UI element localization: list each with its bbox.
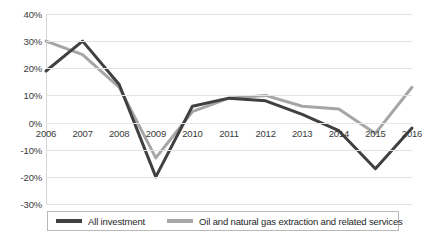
x-tick-label: 2006 <box>36 128 56 139</box>
gridline-40 <box>46 14 412 15</box>
y-tick-label: 40% <box>2 9 42 20</box>
x-tick-label: 2008 <box>109 128 129 139</box>
y-tick-label: 20% <box>2 63 42 74</box>
gridline--20 <box>46 177 412 178</box>
plot-area <box>46 14 412 204</box>
y-tick-label: 10% <box>2 90 42 101</box>
legend-entry-1[interactable]: All investment <box>56 216 145 227</box>
y-tick-label: -30% <box>2 199 42 210</box>
x-tick-label: 2007 <box>72 128 92 139</box>
series-lines <box>46 14 412 204</box>
gridline--10 <box>46 150 412 151</box>
gridline-0 <box>46 123 412 124</box>
chart-legend: All investmentOil and natural gas extrac… <box>47 211 399 231</box>
gridline--30 <box>46 204 412 205</box>
y-tick-label: 30% <box>2 36 42 47</box>
x-tick-label: 2012 <box>255 128 275 139</box>
x-tick-label: 2009 <box>146 128 166 139</box>
legend-entry-2[interactable]: Oil and natural gas extraction and relat… <box>167 216 403 227</box>
y-tick-label: -20% <box>2 171 42 182</box>
x-tick-label: 2013 <box>292 128 312 139</box>
legend-swatch-icon <box>167 219 193 223</box>
y-tick-label: 0% <box>2 117 42 128</box>
legend-label: Oil and natural gas extraction and relat… <box>199 216 403 227</box>
x-tick-label: 2011 <box>219 128 239 139</box>
series-line-1 <box>46 41 412 177</box>
legend-label: All investment <box>88 216 145 227</box>
legend-swatch-icon <box>56 219 82 223</box>
y-tick-label: -10% <box>2 144 42 155</box>
x-tick-label: 2016 <box>402 128 422 139</box>
gridline-10 <box>46 95 412 96</box>
gridline-30 <box>46 41 412 42</box>
x-tick-label: 2014 <box>329 128 349 139</box>
gridline-20 <box>46 68 412 69</box>
x-tick-label: 2015 <box>365 128 385 139</box>
x-tick-label: 2010 <box>182 128 202 139</box>
